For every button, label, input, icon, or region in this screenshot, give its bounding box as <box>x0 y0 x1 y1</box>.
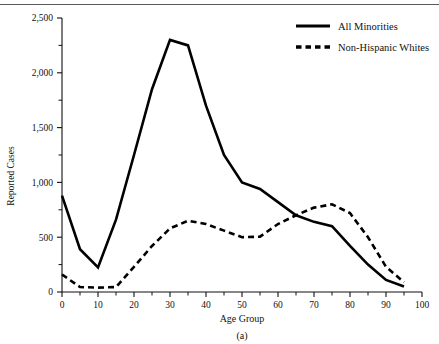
y-tick-label: 2,000 <box>32 68 54 78</box>
data-series-group <box>62 40 404 288</box>
x-tick-label: 40 <box>201 300 211 310</box>
x-axis-title: Age Group <box>220 313 265 324</box>
x-tick-label: 60 <box>273 300 283 310</box>
chart-legend: All Minorities Non-Hispanic Whites <box>296 21 429 53</box>
legend-label-all-minorities: All Minorities <box>338 21 398 32</box>
y-tick-label: 0 <box>48 287 53 297</box>
x-tick-label: 80 <box>345 300 355 310</box>
series-line-non-hispanic-whites <box>62 204 404 287</box>
x-tick-label: 0 <box>60 300 65 310</box>
y-axis-title: Reported Cases <box>6 146 16 206</box>
series-line-all-minorities <box>62 40 404 287</box>
x-tick-labels: 0102030405060708090100 <box>60 300 430 310</box>
chart-axes <box>57 18 422 297</box>
x-tick-label: 30 <box>165 300 175 310</box>
y-tick-label: 2,500 <box>32 13 54 23</box>
x-tick-label: 50 <box>237 300 247 310</box>
x-tick-label: 70 <box>309 300 319 310</box>
y-tick-label: 500 <box>39 233 54 243</box>
line-chart: 05001,0001,5002,0002,500 010203040506070… <box>0 0 439 344</box>
axis-spine <box>62 18 422 292</box>
figure-caption: (a) <box>236 330 247 342</box>
y-tick-labels: 05001,0001,5002,0002,500 <box>32 13 54 297</box>
legend-label-non-hispanic-whites: Non-Hispanic Whites <box>338 42 429 53</box>
x-tick-label: 90 <box>381 300 391 310</box>
y-tick-label: 1,000 <box>32 178 54 188</box>
figure-panel-a: 05001,0001,5002,0002,500 010203040506070… <box>0 0 439 344</box>
x-tick-label: 20 <box>129 300 139 310</box>
x-tick-label: 100 <box>415 300 430 310</box>
x-tick-label: 10 <box>93 300 103 310</box>
y-tick-label: 1,500 <box>32 123 54 133</box>
